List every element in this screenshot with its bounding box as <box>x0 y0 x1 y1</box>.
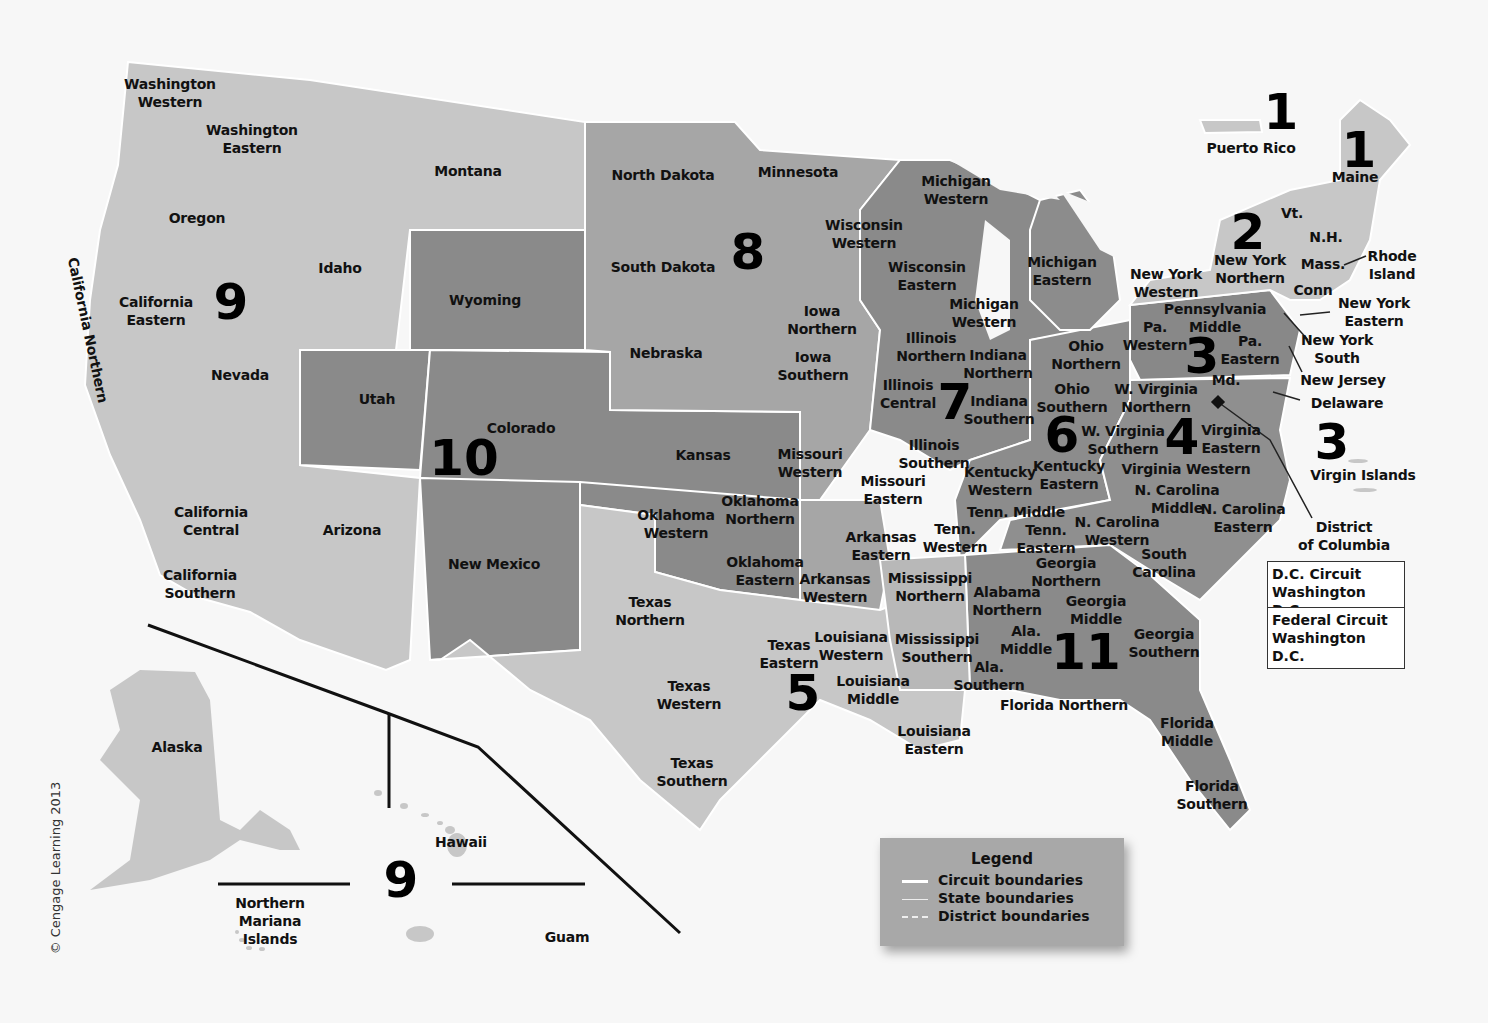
region-label: Mass. <box>1301 255 1345 273</box>
region-label: Puerto Rico <box>1206 139 1295 157</box>
region-label: MichiganEastern <box>1027 253 1097 289</box>
region-label: ArkansasEastern <box>846 528 917 564</box>
region-label: TexasWestern <box>657 677 721 713</box>
legend-state-boundaries: State boundaries <box>902 890 1074 906</box>
region-label: MichiganWestern <box>949 295 1019 331</box>
region-label: IndianaSouthern <box>963 392 1034 428</box>
region-label: Ala.Middle <box>1000 622 1052 658</box>
circuit-number: 9 <box>384 855 419 905</box>
region-label: New YorkEastern <box>1338 294 1410 330</box>
region-label: OklahomaEastern <box>726 553 803 589</box>
region-label: TexasNorthern <box>615 593 685 629</box>
region-label: Conn <box>1293 281 1332 299</box>
region-label: Wyoming <box>449 291 521 309</box>
region-label: LouisianaMiddle <box>836 672 910 708</box>
region-label: Tenn.Eastern <box>1016 521 1075 557</box>
region-label: CaliforniaSouthern <box>163 566 237 602</box>
circuit-number: 9 <box>214 277 249 327</box>
circuit-number: 2 <box>1231 207 1266 257</box>
region-label: Oregon <box>169 209 226 227</box>
legend-district-boundaries: District boundaries <box>902 908 1090 924</box>
region-label: RhodeIsland <box>1368 247 1417 283</box>
region-label: New YorkSouth <box>1301 331 1373 367</box>
legend: Legend Circuit boundaries State boundari… <box>880 838 1124 946</box>
region-label: OklahomaNorthern <box>721 492 798 528</box>
region-label: N. CarolinaEastern <box>1201 500 1286 536</box>
region-label: W. VirginiaSouthern <box>1081 422 1165 458</box>
region-label: New Mexico <box>448 555 540 573</box>
region-label: Kansas <box>675 446 730 464</box>
circuit-number: 11 <box>1051 627 1121 677</box>
region-label: Guam <box>545 928 590 946</box>
region-label: New Jersey <box>1300 371 1386 389</box>
dashed-line-icon <box>902 916 928 918</box>
region-label: WisconsinWestern <box>825 216 903 252</box>
legend-circuit-boundaries: Circuit boundaries <box>902 872 1083 888</box>
region-label: Idaho <box>318 259 361 277</box>
region-label: Vt. <box>1281 204 1303 222</box>
region-label: Tenn. Middle <box>967 503 1065 521</box>
circuit-number: 1 <box>1264 87 1299 137</box>
region-label: IowaNorthern <box>787 302 857 338</box>
region-label: WisconsinEastern <box>888 258 966 294</box>
region-label: Tenn.Western <box>923 520 987 556</box>
circuit-number: 1 <box>1342 125 1377 175</box>
region-label: Utah <box>359 390 396 408</box>
circuit-number: 6 <box>1045 410 1080 460</box>
region-label: Arizona <box>323 521 381 539</box>
region-label: IllinoisSouthern <box>898 436 969 472</box>
region-label: WashingtonWestern <box>124 75 216 111</box>
circuit-number: 4 <box>1165 412 1200 462</box>
region-label: CaliforniaEastern <box>119 293 193 329</box>
region-label: Hawaii <box>435 833 487 851</box>
region-label: N.H. <box>1309 228 1342 246</box>
region-label: Alaska <box>152 738 203 756</box>
region-label: IllinoisNorthern <box>896 329 966 365</box>
alaska-shape <box>90 670 300 890</box>
region-label: North Dakota <box>611 166 714 184</box>
circuit-number: 3 <box>1185 331 1220 381</box>
region-label: OklahomaWestern <box>637 506 714 542</box>
region-label: SouthCarolina <box>1132 545 1196 581</box>
region-label: Delaware <box>1311 394 1384 412</box>
circuit-number: 3 <box>1315 417 1350 467</box>
region-label: FloridaSouthern <box>1176 777 1247 813</box>
region-label: Ala.Southern <box>953 658 1024 694</box>
region-label: GeorgiaSouthern <box>1128 625 1199 661</box>
region-label: Districtof Columbia <box>1298 518 1390 554</box>
region-label: IllinoisCentral <box>880 376 936 412</box>
region-label: New YorkWestern <box>1130 265 1202 301</box>
region-label: MissouriEastern <box>860 472 925 508</box>
region-label: Pa.Western <box>1123 318 1187 354</box>
region-label: Florida Northern <box>1000 696 1128 714</box>
region-label: AlabamaNorthern <box>972 583 1042 619</box>
federal-circuit-box: Federal Circuit Washington D.C. <box>1267 607 1405 669</box>
region-label: Nebraska <box>629 344 702 362</box>
region-label: Montana <box>434 162 502 180</box>
region-label: MississippiNorthern <box>888 569 972 605</box>
region-label: OhioNorthern <box>1051 337 1121 373</box>
circuit-number: 10 <box>429 433 499 483</box>
region-label: Minnesota <box>758 163 838 181</box>
region-label: LouisianaWestern <box>814 628 888 664</box>
circuit-number: 8 <box>731 227 766 277</box>
region-label: TexasSouthern <box>656 754 727 790</box>
region-label: VirginiaEastern <box>1201 421 1261 457</box>
region-label: CaliforniaCentral <box>174 503 248 539</box>
region-label: WashingtonEastern <box>206 121 298 157</box>
region-label: South Dakota <box>611 258 716 276</box>
region-label: MichiganWestern <box>921 172 991 208</box>
copyright-notice: © Cengage Learning 2013 <box>48 782 63 955</box>
region-label: Nevada <box>211 366 269 384</box>
region-label: IndianaNorthern <box>963 346 1033 382</box>
region-label: N. CarolinaWestern <box>1075 513 1160 549</box>
solid-line-icon <box>902 880 928 883</box>
circuit-number: 7 <box>938 377 973 427</box>
thin-line-icon <box>902 899 928 900</box>
region-label: KentuckyWestern <box>964 463 1036 499</box>
circuit-number: 5 <box>786 668 821 718</box>
region-label: LouisianaEastern <box>897 722 971 758</box>
region-label: IowaSouthern <box>777 348 848 384</box>
region-label: NorthernMarianaIslands <box>235 894 305 948</box>
region-label: Pa.Eastern <box>1220 332 1279 368</box>
